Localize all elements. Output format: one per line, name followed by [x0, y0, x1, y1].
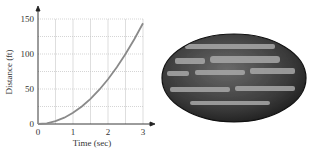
- y-tick-50: 50: [25, 84, 35, 94]
- distance-time-chart: 0 50 100 150 0 1 2 3 Time (sec) Distance…: [0, 0, 160, 158]
- axes: [36, 6, 155, 126]
- x-axis-label: Time (sec): [73, 138, 111, 148]
- y-tick-labels: 0 50 100 150: [21, 14, 35, 129]
- y-axis-label: Distance (ft): [4, 49, 14, 94]
- x-tick-2: 2: [106, 127, 111, 137]
- x-tick-0: 0: [36, 127, 41, 137]
- x-tick-labels: 0 1 2 3: [36, 127, 146, 137]
- x-tick-1: 1: [71, 127, 76, 137]
- y-axis-arrow-icon: [36, 6, 40, 11]
- y-tick-150: 150: [21, 14, 35, 24]
- y-tick-0: 0: [30, 119, 35, 129]
- x-tick-3: 3: [141, 127, 146, 137]
- y-tick-100: 100: [21, 49, 35, 59]
- watermelon-photo: [155, 0, 313, 158]
